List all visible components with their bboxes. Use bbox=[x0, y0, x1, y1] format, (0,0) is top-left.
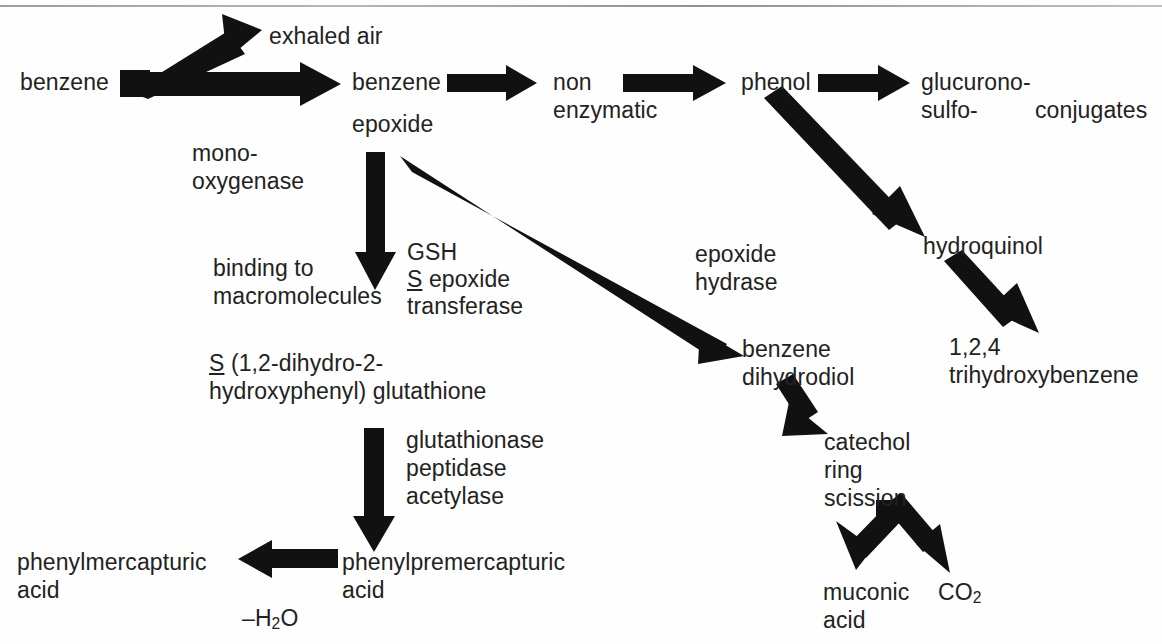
edge-phenol-to-glucurono-sulfo bbox=[818, 65, 910, 101]
node-glutathione-conjugate-line1: S (1,2-dihydro-2- bbox=[209, 349, 383, 378]
node-exhaled-air: exhaled air bbox=[269, 22, 383, 51]
node-conjugates: conjugates bbox=[1035, 96, 1147, 125]
node-carbon-dioxide: CO2 bbox=[938, 578, 982, 612]
enzyme-gsh-s-letter: S bbox=[407, 266, 422, 292]
node-benzene-dihydrodiol-line2: dihydrodiol bbox=[742, 363, 854, 392]
node-muconic-acid-line2: acid bbox=[823, 606, 866, 635]
enzyme-glutathionase-line3: acetylase bbox=[406, 482, 504, 511]
node-phenylmercapturic-line1: phenylmercapturic bbox=[17, 548, 207, 577]
edge-epoxide-to-binding-macromolecules bbox=[355, 152, 396, 290]
node-glutathione-conjugate-line2: hydroxyphenyl) glutathione bbox=[209, 377, 487, 406]
enzyme-epoxide-hydrase-line2: hydrase bbox=[695, 268, 778, 297]
edge-hydroquinol-to-trihydroxybenzene bbox=[944, 250, 1039, 333]
node-non-enzymatic-line1: non bbox=[553, 68, 592, 97]
enzyme-glutathionase-line1: glutathionase bbox=[406, 426, 544, 455]
node-hydroquinol: hydroquinol bbox=[923, 232, 1043, 261]
node-benzene-epoxide-line2: epoxide bbox=[352, 110, 433, 139]
edge-glutathione-conjugate-to-phenylpremercapturic bbox=[353, 428, 395, 552]
edge-epoxide-to-non-enzymatic bbox=[447, 65, 537, 101]
enzyme-monooxygenase-line1: mono- bbox=[192, 139, 258, 168]
node-non-enzymatic-line2: enzymatic bbox=[553, 96, 657, 125]
enzyme-gsh-line2: S epoxide bbox=[407, 265, 510, 294]
enzyme-gsh-line1: GSH bbox=[407, 238, 457, 267]
water-loss-prefix: –H bbox=[242, 605, 272, 631]
edge-phenylpremercapturic-to-phenylmercapturic bbox=[238, 540, 338, 578]
node-phenylmercapturic-line2: acid bbox=[17, 576, 60, 605]
glutathione-s-letter: S bbox=[209, 350, 224, 376]
node-binding-line1: binding to bbox=[213, 254, 314, 283]
water-loss-suffix: O bbox=[280, 605, 298, 631]
enzyme-epoxide-hydrase-line1: epoxide bbox=[695, 240, 776, 269]
edge-phenol-to-hydroquinol bbox=[764, 86, 925, 237]
node-glucurono-line1: glucurono- bbox=[921, 68, 1031, 97]
node-phenol: phenol bbox=[741, 68, 811, 97]
node-catechol-line1: catechol bbox=[824, 428, 910, 457]
node-phenylpremercapturic-line1: phenylpremercapturic bbox=[342, 548, 565, 577]
glutathione-conjugate-line1-rest: (1,2-dihydro-2- bbox=[224, 350, 383, 376]
node-benzene-dihydrodiol-line1: benzene bbox=[742, 335, 831, 364]
node-benzene-epoxide-line1: benzene bbox=[352, 68, 441, 97]
node-trihydroxybenzene-line2: trihydroxybenzene bbox=[949, 361, 1139, 390]
pathway-diagram-canvas: benzene exhaled air benzene epoxide non … bbox=[0, 0, 1162, 644]
node-benzene-start: benzene bbox=[20, 68, 109, 97]
node-trihydroxybenzene-line1: 1,2,4 bbox=[949, 333, 1001, 362]
enzyme-glutathionase-line2: peptidase bbox=[406, 454, 507, 483]
node-phenylpremercapturic-line2: acid bbox=[342, 576, 385, 605]
node-catechol-line2: ring bbox=[824, 456, 863, 485]
node-catechol-line3: scission bbox=[824, 484, 907, 513]
enzyme-gsh-line3: transferase bbox=[407, 292, 523, 321]
enzyme-gsh-line2-rest: epoxide bbox=[422, 266, 510, 292]
cropped-caption-remnant bbox=[0, 634, 1162, 644]
carbon-dioxide-subscript: 2 bbox=[973, 589, 982, 606]
enzyme-monooxygenase-line2: oxygenase bbox=[192, 167, 304, 196]
node-binding-line2: macromolecules bbox=[213, 282, 382, 311]
node-muconic-acid-line1: muconic bbox=[823, 578, 909, 607]
node-glucurono-line2: sulfo- bbox=[921, 96, 978, 125]
top-border-rule bbox=[0, 5, 1162, 7]
carbon-dioxide-prefix: CO bbox=[938, 579, 973, 605]
